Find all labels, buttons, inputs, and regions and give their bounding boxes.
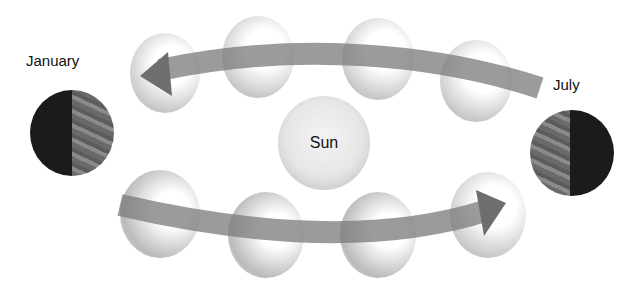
- earth-january: [30, 90, 114, 176]
- july-label: July: [553, 76, 580, 93]
- earth-day-side: [72, 90, 114, 176]
- sun-label: Sun: [310, 134, 338, 152]
- earth-night-side: [570, 110, 614, 196]
- earth-night-side: [30, 90, 72, 176]
- arrow-head-left-icon: [140, 52, 172, 96]
- orbit-arrow-top: [160, 54, 540, 88]
- january-label: January: [26, 52, 79, 69]
- earth-july: [530, 110, 614, 196]
- earth-day-side: [530, 110, 570, 196]
- orbit-arrow-bottom: [120, 205, 488, 232]
- sun: Sun: [278, 96, 370, 190]
- arrow-head-right-icon: [476, 190, 506, 236]
